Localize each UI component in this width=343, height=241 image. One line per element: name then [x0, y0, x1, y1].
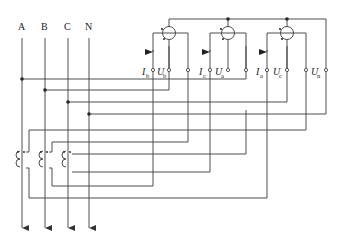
- neutral-voltage-sub: n: [317, 72, 321, 79]
- meter-3-current-sub: a: [260, 72, 263, 79]
- wiring-diagram: A B C N: [0, 0, 343, 241]
- phase-label-n: N: [85, 21, 92, 32]
- meter-1-current-sub: b: [146, 72, 149, 79]
- meter-2-current-sub: c: [203, 72, 206, 79]
- meter-2: I c U a: [198, 27, 248, 80]
- voltage-taps: [20, 46, 326, 116]
- phase-label-c: C: [64, 21, 71, 32]
- top-bus: [169, 17, 326, 46]
- meter-1: I b U b: [141, 27, 190, 80]
- meter-3-voltage-sub: c: [279, 72, 282, 79]
- phase-label-b: B: [41, 21, 48, 32]
- meter-2-voltage-sub: a: [221, 72, 224, 79]
- meter-1-voltage-sub: b: [163, 72, 166, 79]
- current-transformers: [16, 151, 71, 167]
- phase-lines: [22, 38, 89, 228]
- meter-3: I a U c U n: [255, 27, 328, 80]
- phase-label-a: A: [18, 21, 26, 32]
